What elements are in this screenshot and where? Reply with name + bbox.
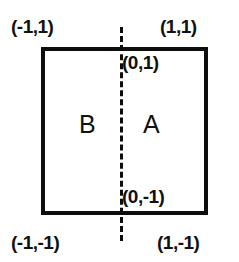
divider-label-bottom: (0,-1) [122, 187, 164, 207]
divider-label-top: (0,1) [122, 53, 159, 73]
region-label-b: B [79, 111, 96, 137]
corner-label-top-left: (-1,1) [11, 17, 53, 37]
region-label-a: A [143, 111, 160, 137]
coordinate-square-figure: (-1,1) (1,1) (-1,-1) (1,-1) (0,1) (0,-1)… [0, 0, 239, 262]
corner-label-top-right: (1,1) [160, 17, 197, 37]
corner-label-bottom-right: (1,-1) [157, 233, 199, 253]
corner-label-bottom-left: (-1,-1) [11, 233, 59, 253]
